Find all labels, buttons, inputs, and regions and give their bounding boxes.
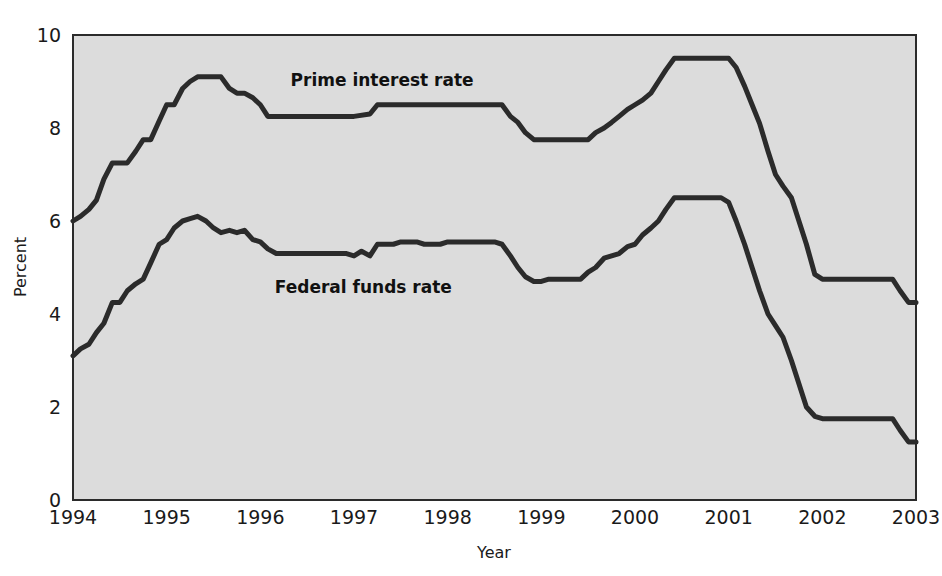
x-tick-label: 1994 (49, 506, 97, 528)
y-tick-label: 8 (49, 117, 61, 139)
x-tick-label: 2001 (704, 506, 752, 528)
x-tick-label: 1997 (330, 506, 378, 528)
y-tick-label: 4 (49, 303, 61, 325)
x-tick-label: 2002 (798, 506, 846, 528)
y-tick-label: 2 (49, 396, 61, 418)
y-tick-label: 10 (37, 24, 61, 46)
y-tick-label: 6 (49, 210, 61, 232)
x-axis-title: Year (476, 543, 511, 562)
x-tick-label: 1995 (142, 506, 190, 528)
x-tick-label: 1996 (236, 506, 284, 528)
y-axis-title: Percent (11, 237, 30, 297)
chart-figure: 0246810 19941995199619971998199920002001… (0, 0, 942, 576)
series-annotation-label: Prime interest rate (291, 70, 474, 90)
x-tick-label: 2003 (892, 506, 940, 528)
series-annotation-label: Federal funds rate (275, 277, 452, 297)
x-tick-label: 1998 (423, 506, 471, 528)
x-tick-label: 2000 (611, 506, 659, 528)
x-tick-label: 1999 (517, 506, 565, 528)
interest-rates-line-chart: 0246810 19941995199619971998199920002001… (0, 0, 942, 576)
